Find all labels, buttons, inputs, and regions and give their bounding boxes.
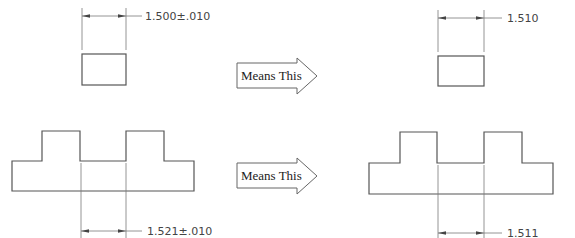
dimension-label: 1.521±.010 [147,225,212,238]
arrowhead-left-icon [82,14,90,17]
arrowhead-left-icon [81,229,89,232]
dimension-label: 1.511 [507,227,539,238]
dimension-label: 1.500±.010 [145,10,210,23]
arrowhead-left-icon [438,16,446,19]
means-this-arrow-top: Means This [237,58,317,94]
top-right-part: 1.510 [438,10,539,86]
bottom-left-part: 1.521±.010 [12,131,212,238]
arrowhead-right-icon [118,229,126,232]
arrowhead-right-icon [476,231,484,234]
stepped-profile-outline [369,132,553,194]
arrow-label: Means This [241,168,302,183]
rectangle-outline [82,54,126,85]
rectangle-outline [438,56,484,86]
arrowhead-right-icon [476,16,484,19]
arrowhead-right-icon [118,14,126,17]
dimension-label: 1.510 [507,12,539,25]
stepped-profile-outline [12,131,194,191]
arrow-label: Means This [241,68,302,83]
means-this-arrow-bottom: Means This [237,158,317,194]
arrowhead-left-icon [438,231,446,234]
top-left-part: 1.500±.010 [82,8,210,85]
drawing-canvas: 1.500±.010 Means This 1.510 1.521±.010 M… [0,0,575,238]
bottom-right-part: 1.511 [369,132,553,238]
